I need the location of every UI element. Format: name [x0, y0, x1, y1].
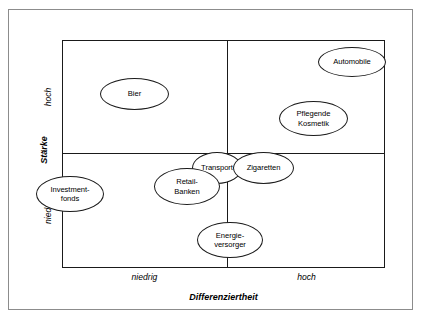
matrix-node: Energie- versorger	[197, 222, 263, 258]
x-axis-tick-low: niedrig	[62, 272, 227, 282]
matrix-node: Pflegende Kosmetik	[279, 101, 348, 136]
matrix-node: Retail- Banken	[154, 168, 220, 205]
x-axis-tick-high: hoch	[228, 272, 385, 282]
x-axis-title: Differenziertheit	[62, 292, 385, 302]
matrix-node: Investment- fonds	[36, 176, 104, 212]
matrix-node: Zigaretten	[233, 152, 294, 184]
positioning-matrix-figure: Stärke hoch niedrig niedrig hoch Differe…	[0, 0, 422, 319]
matrix-node: Bier	[100, 78, 169, 110]
y-axis-tick-high: hoch	[43, 67, 53, 127]
matrix-node: Automobile	[318, 47, 386, 77]
